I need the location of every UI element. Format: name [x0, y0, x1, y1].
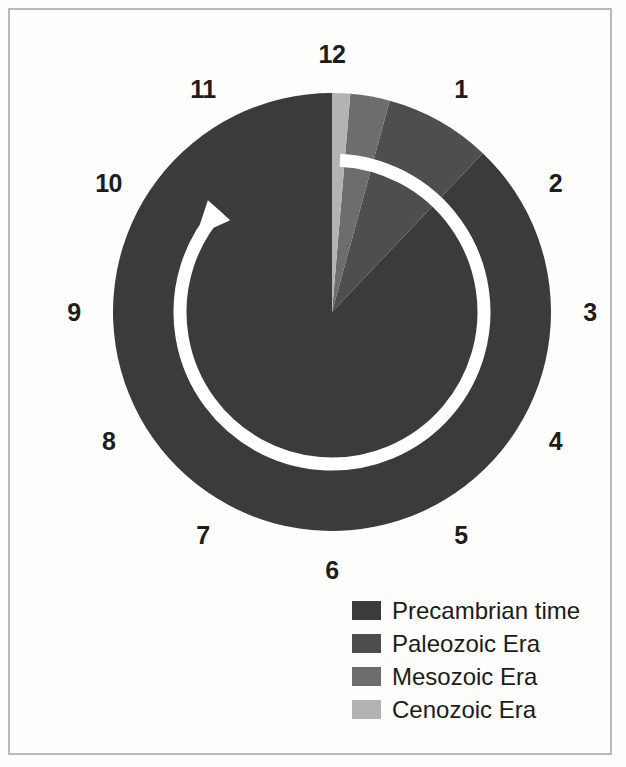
clock-pie-figure: 121234567891011 Precambrian timePaleozoi…: [0, 0, 626, 767]
legend-item-label: Paleozoic Era: [392, 632, 540, 656]
clock-hour-label-5: 5: [454, 523, 467, 548]
clock-hour-label-1: 1: [454, 76, 467, 101]
legend-item-label: Precambrian time: [392, 599, 580, 623]
legend-item-label: Mesozoic Era: [392, 665, 537, 689]
clock-hour-label-6: 6: [325, 558, 338, 583]
clock-hour-label-4: 4: [549, 429, 562, 454]
legend-item[interactable]: Precambrian time: [352, 594, 602, 627]
legend-color-swatch: [352, 601, 381, 620]
legend-color-swatch: [352, 700, 381, 719]
legend-item[interactable]: Mesozoic Era: [352, 660, 602, 693]
clock-hour-label-7: 7: [196, 523, 209, 548]
legend-color-swatch: [352, 667, 381, 686]
legend-item[interactable]: Paleozoic Era: [352, 627, 602, 660]
clock-hour-label-10: 10: [95, 171, 122, 196]
clock-hour-label-9: 9: [67, 300, 80, 325]
clock-hour-label-2: 2: [549, 171, 562, 196]
clock-hour-label-3: 3: [583, 300, 596, 325]
clock-hour-label-12: 12: [319, 42, 346, 67]
clock-hour-label-11: 11: [190, 76, 215, 101]
era-legend: Precambrian timePaleozoic EraMesozoic Er…: [352, 594, 602, 726]
clock-hour-label-8: 8: [102, 429, 115, 454]
figure-page: 121234567891011 Precambrian timePaleozoi…: [0, 0, 626, 767]
legend-color-swatch: [352, 634, 381, 653]
legend-item-label: Cenozoic Era: [392, 698, 536, 722]
legend-item[interactable]: Cenozoic Era: [352, 693, 602, 726]
